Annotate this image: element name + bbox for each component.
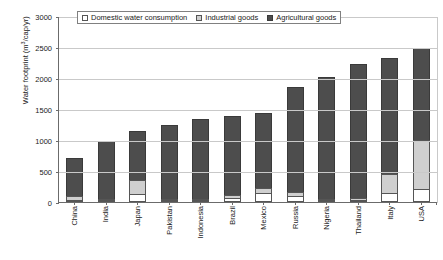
stacked-bar[interactable] — [350, 64, 367, 202]
y-tick-mark — [56, 141, 59, 142]
y-tick-mark — [56, 17, 59, 18]
gridline — [59, 141, 437, 142]
bar-segment-dom[interactable] — [129, 194, 146, 202]
x-label-slot: USA — [405, 204, 437, 260]
bar-segment-ind[interactable] — [381, 174, 398, 193]
gridline — [59, 172, 437, 173]
y-tick-label: 1500 — [12, 106, 52, 115]
x-label-slot: Mexico — [247, 204, 279, 260]
bar-segment-dom[interactable] — [381, 193, 398, 202]
x-axis-label-indonesia: Indonesia — [196, 206, 205, 239]
x-axis-label-nigeria: Nigeria — [322, 206, 331, 230]
legend-label: Agricultural goods — [276, 13, 336, 22]
legend-item-ind[interactable]: Industrial goods — [196, 13, 258, 22]
bar-segment-agr[interactable] — [161, 125, 178, 198]
bar-segment-ind[interactable] — [129, 180, 146, 194]
y-tick-mark — [56, 48, 59, 49]
y-tick-label: 2500 — [12, 44, 52, 53]
x-axis-labels: ChinaIndiaJapanPakistanIndonesiaBrazilMe… — [58, 204, 437, 260]
bar-segment-dom[interactable] — [287, 196, 304, 202]
y-tick-label: 500 — [12, 168, 52, 177]
legend-swatch-dom-icon — [82, 15, 88, 21]
chart-legend: Domestic water consumptionIndustrial goo… — [77, 11, 341, 24]
x-axis-label-italy: Italy — [385, 206, 394, 220]
y-tick-label: 0 — [12, 199, 52, 208]
bar-segment-dom[interactable] — [192, 200, 209, 202]
stacked-bar[interactable] — [66, 158, 83, 202]
x-label-slot: Nigeria — [311, 204, 343, 260]
x-label-slot: Brazil — [216, 204, 248, 260]
bar-segment-dom[interactable] — [318, 200, 335, 202]
plot-area — [58, 17, 437, 203]
x-axis-label-india: India — [101, 206, 110, 222]
plot-frame-right — [437, 17, 438, 203]
stacked-bar[interactable] — [224, 116, 241, 202]
bar-segment-dom[interactable] — [66, 200, 83, 202]
bar-segment-agr[interactable] — [350, 64, 367, 198]
legend-label: Industrial goods — [205, 13, 258, 22]
x-axis-label-china: China — [69, 206, 78, 226]
x-label-slot: India — [90, 204, 122, 260]
water-footprint-stacked-bar-chart: Water footprint (m3/cap/yr) 050010001500… — [0, 0, 443, 260]
x-label-slot: Thailand — [342, 204, 374, 260]
y-tick-mark — [56, 110, 59, 111]
x-axis-label-usa: USA — [417, 206, 426, 221]
bar-segment-dom[interactable] — [350, 200, 367, 202]
bar-segment-agr[interactable] — [413, 48, 430, 140]
y-axis-title: Water footprint (m3/cap/yr) — [20, 0, 31, 145]
stacked-bar[interactable] — [413, 48, 430, 202]
stacked-bar[interactable] — [255, 113, 272, 202]
y-tick-label: 1000 — [12, 137, 52, 146]
bar-segment-agr[interactable] — [287, 87, 304, 191]
gridline — [59, 48, 437, 49]
stacked-bar[interactable] — [318, 77, 335, 202]
x-label-slot: Pakistan — [153, 204, 185, 260]
legend-swatch-agr-icon — [267, 15, 273, 21]
legend-item-dom[interactable]: Domestic water consumption — [82, 13, 187, 22]
bar-segment-dom[interactable] — [413, 189, 430, 202]
bar-segment-agr[interactable] — [381, 58, 398, 174]
x-label-slot: Russia — [279, 204, 311, 260]
gridline — [59, 79, 437, 80]
x-label-slot: Italy — [374, 204, 406, 260]
bar-segment-dom[interactable] — [224, 198, 241, 202]
y-tick-label: 3000 — [12, 13, 52, 22]
bar-segment-dom[interactable] — [98, 200, 115, 202]
x-axis-label-pakistan: Pakistan — [164, 206, 173, 235]
x-axis-label-brazil: Brazil — [227, 206, 236, 225]
bar-segment-dom[interactable] — [255, 193, 272, 202]
bar-segment-agr[interactable] — [98, 141, 115, 199]
bar-segment-ind[interactable] — [413, 140, 430, 189]
x-label-slot: Japan — [121, 204, 153, 260]
gridline — [59, 110, 437, 111]
y-tick-mark — [56, 79, 59, 80]
x-axis-label-thailand: Thailand — [353, 206, 362, 235]
x-axis-label-russia: Russia — [290, 206, 299, 229]
y-tick-mark — [56, 172, 59, 173]
bar-segment-agr[interactable] — [66, 158, 83, 196]
bar-segment-agr[interactable] — [318, 77, 335, 199]
bar-segment-agr[interactable] — [192, 119, 209, 199]
x-label-slot: China — [58, 204, 90, 260]
x-axis-label-japan: Japan — [132, 206, 141, 226]
legend-label: Domestic water consumption — [91, 13, 187, 22]
x-axis-label-mexico: Mexico — [259, 206, 268, 230]
legend-swatch-ind-icon — [196, 15, 202, 21]
bar-segment-agr[interactable] — [224, 116, 241, 194]
bar-segment-agr[interactable] — [255, 113, 272, 188]
bar-segment-dom[interactable] — [161, 200, 178, 202]
stacked-bar[interactable] — [192, 119, 209, 202]
legend-item-agr[interactable]: Agricultural goods — [267, 13, 336, 22]
y-tick-label: 2000 — [12, 75, 52, 84]
stacked-bar[interactable] — [161, 125, 178, 202]
x-label-slot: Indonesia — [184, 204, 216, 260]
stacked-bar[interactable] — [287, 87, 304, 202]
